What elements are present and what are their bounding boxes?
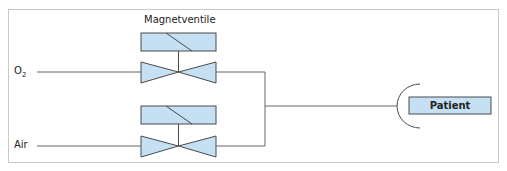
air-label: Air [14,139,28,150]
valve-triangle-right-icon [179,62,217,83]
diagram-title: Magnetventile [144,14,216,25]
o2-label: O2 [14,65,26,79]
patient-label: Patient [409,97,491,114]
valve-triangle-left-icon [141,62,179,83]
valve-triangle-right-icon [179,136,217,157]
solenoid-valve-2 [141,106,216,157]
solenoid-valve-1 [141,33,216,83]
solenoid-valve-diagram [0,0,507,171]
valve-triangle-left-icon [141,136,179,157]
